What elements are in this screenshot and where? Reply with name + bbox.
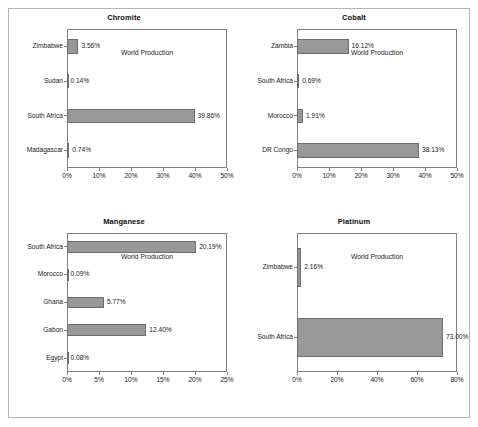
category-label: South Africa [27,244,63,251]
x-axis-tick-label: 30% [156,173,169,180]
x-axis-tick-label: 20% [330,377,343,384]
bar [67,324,146,336]
bar-value-label: 3.56% [81,43,100,50]
y-axis-tick [64,46,67,47]
x-axis-tick [457,372,458,375]
x-axis-tick [99,168,100,171]
bar-value-label: 0.69% [302,78,321,85]
bar-row: Zambia16.12% [297,29,457,64]
bar-value-label: 0.09% [71,271,90,278]
bar-row: South Africa73.00% [297,303,457,373]
x-axis-tick-label: 40% [370,377,383,384]
x-axis-tick [227,372,228,375]
chart-title: Cobalt [239,13,469,22]
x-axis-tick-label: 25% [220,377,233,384]
chart-panel-manganese: Manganese South Africa20.19%Morocco0.09%… [9,213,239,417]
category-label: South Africa [257,334,293,341]
bar-row: DR Congo38.13% [297,133,457,168]
x-axis-tick [131,168,132,171]
x-axis-tick [163,168,164,171]
chart-title: Platinum [239,217,469,226]
category-label: Gabon [43,327,63,334]
bar-value-label: 1.91% [306,113,325,120]
x-axis-title: World Production [297,50,457,57]
bar-row: South Africa0.69% [297,64,457,99]
x-axis-tick-label: 10% [322,173,335,180]
x-axis-tick-label: 0% [292,173,302,180]
y-axis-tick [64,330,67,331]
x-axis: 0%10%20%30%40%50% [297,168,457,188]
bar-row: Zimbabwe3.56% [67,29,227,64]
bar-row: Sudan0.14% [67,64,227,99]
bar-row: Egypt0.08% [67,344,227,372]
figure-frame: Chromite Zimbabwe3.56%Sudan0.14%South Af… [8,8,470,418]
bar-row: Morocco1.91% [297,99,457,134]
x-axis-tick [457,168,458,171]
x-axis-title: World Production [67,50,227,57]
x-axis-tick [67,168,68,171]
bar-row: South Africa39.86% [67,99,227,134]
x-axis-tick [131,372,132,375]
bar-row: Zimbabwe2.16% [297,233,457,303]
x-axis-tick [425,168,426,171]
y-axis-tick [294,337,297,338]
y-axis-tick [64,115,67,116]
bar [67,352,69,364]
x-axis-tick [417,372,418,375]
category-label: Ghana [43,299,63,306]
bar-value-label: 73.00% [446,334,468,341]
category-label: Sudan [44,78,63,85]
x-axis-tick-label: 0% [62,377,72,384]
x-axis-tick-label: 40% [188,173,201,180]
category-label: DR Congo [262,147,293,154]
bar [67,109,195,124]
bar-value-label: 38.13% [422,147,444,154]
chart-panel-chromite: Chromite Zimbabwe3.56%Sudan0.14%South Af… [9,9,239,213]
chart-title: Manganese [9,217,239,226]
bar [297,109,303,124]
bar-row: Gabon12.40% [67,316,227,344]
x-axis-tick [195,168,196,171]
y-axis-tick [64,246,67,247]
x-axis-tick-label: 60% [410,377,423,384]
category-label: South Africa [257,78,293,85]
x-axis-tick [297,168,298,171]
x-axis-tick [99,372,100,375]
x-axis: 0%10%20%30%40%50% [67,168,227,188]
bar [67,269,69,281]
category-label: Madagascar [27,147,63,154]
bar [297,318,443,357]
x-axis: 0%5%10%15%20%25% [67,372,227,392]
bar-value-label: 0.74% [72,147,91,154]
bar [67,143,69,158]
bar-value-label: 39.86% [198,113,220,120]
chart-title: Chromite [9,13,239,22]
x-axis: 0%20%40%60%80% [297,372,457,392]
category-label: Morocco [268,113,293,120]
x-axis-tick [67,372,68,375]
category-label: Morocco [38,271,63,278]
bar-row: Madagascar0.74% [67,133,227,168]
bar [297,143,419,158]
y-axis-tick [64,81,67,82]
x-axis-tick-label: 0% [62,173,72,180]
x-axis-tick-label: 15% [156,377,169,384]
x-axis-tick [163,372,164,375]
bar-value-label: 12.40% [149,327,171,334]
x-axis-tick [361,168,362,171]
y-axis-tick [64,150,67,151]
x-axis-tick-label: 30% [386,173,399,180]
y-axis-tick [294,115,297,116]
x-axis-tick-label: 10% [92,173,105,180]
bar [67,297,104,309]
category-label: South Africa [27,113,63,120]
bar-value-label: 5.77% [107,299,126,306]
category-label: Egypt [46,355,63,362]
x-axis-tick-label: 20% [188,377,201,384]
y-axis-tick [64,358,67,359]
y-axis-tick [294,46,297,47]
x-axis-tick-label: 0% [292,377,302,384]
bar-row: Morocco0.09% [67,261,227,289]
x-axis-tick-label: 50% [450,173,463,180]
x-axis-tick [329,168,330,171]
